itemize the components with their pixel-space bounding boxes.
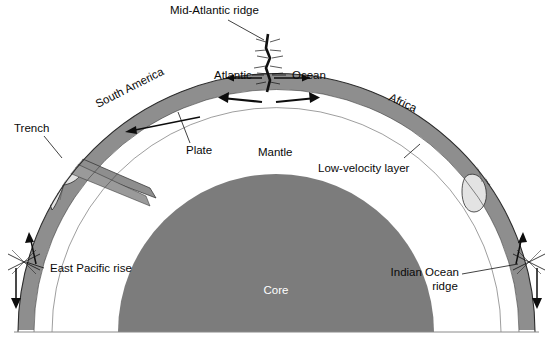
earth-cross-section-svg: Mid-Atlantic ridge Atlantic Ocean South … (0, 0, 553, 338)
label-east-pacific-rise: East Pacific rise (50, 262, 132, 274)
label-ocean: Ocean (292, 69, 326, 81)
label-atlantic: Atlantic (214, 69, 252, 81)
leader-mid-atlantic-ridge (228, 20, 264, 40)
label-indian-ocean-ridge-line2: ridge (432, 280, 458, 292)
diagram-canvas: Mid-Atlantic ridge Atlantic Ocean South … (0, 0, 553, 338)
label-mantle: Mantle (258, 146, 293, 158)
label-low-velocity-layer: Low-velocity layer (318, 162, 410, 174)
label-mid-atlantic-ridge: Mid-Atlantic ridge (170, 4, 259, 16)
label-indian-ocean-ridge-line1: Indian Ocean (391, 266, 459, 278)
label-trench: Trench (14, 122, 49, 134)
label-south-america: South America (93, 65, 166, 110)
label-core: Core (264, 284, 289, 296)
leader-trench (44, 136, 62, 158)
label-plate: Plate (186, 144, 212, 156)
